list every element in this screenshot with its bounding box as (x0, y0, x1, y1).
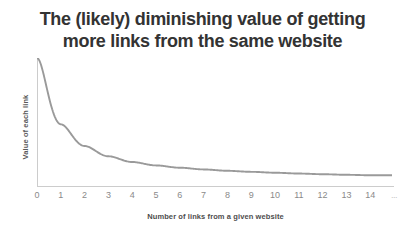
chart-title-line-1: The (likely) diminishing value of gettin… (0, 8, 405, 30)
x-axis-label: Number of links from a given website (37, 212, 394, 221)
x-tick-label: 11 (294, 190, 303, 200)
chart-title: The (likely) diminishing value of gettin… (0, 8, 405, 52)
x-tick-label: 5 (153, 190, 158, 200)
chart-title-line-2: more links from the same website (0, 30, 405, 52)
plot-area (37, 58, 392, 186)
x-tick-label: 10 (270, 190, 280, 200)
chart-figure: The (likely) diminishing value of gettin… (0, 0, 405, 239)
decay-curve-line (37, 58, 392, 175)
x-tick-label: 7 (201, 190, 206, 200)
x-tick-label: 4 (130, 190, 135, 200)
x-tick-label: 9 (249, 190, 254, 200)
x-tick-label: 6 (177, 190, 182, 200)
x-tick-label: 14 (365, 190, 375, 200)
x-tick-label: 0 (34, 190, 39, 200)
x-tick-label: 2 (82, 190, 87, 200)
x-tick-label: 1 (58, 190, 63, 200)
x-axis-line (37, 186, 394, 187)
x-tick-label: 12 (318, 190, 328, 200)
x-tick-label: 8 (225, 190, 230, 200)
x-tick-label: ... (391, 190, 397, 200)
x-tick-label: 13 (341, 190, 351, 200)
x-tick-label: 3 (106, 190, 111, 200)
y-axis-label: Value of each link (21, 95, 30, 160)
x-axis-tick-labels: 01234567891011121314... (37, 190, 394, 204)
decay-curve-svg (37, 58, 392, 186)
